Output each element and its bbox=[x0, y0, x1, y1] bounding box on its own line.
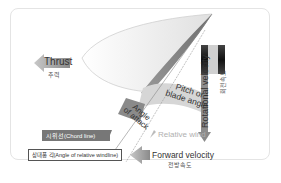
forward-velocity-label: Forward velocity bbox=[152, 150, 214, 160]
blade-body bbox=[82, 14, 212, 92]
relative-wind-angle-label: 상대풍 각(Angle of relative windline) bbox=[28, 149, 122, 161]
rotational-velocity-label: Rotational velocity bbox=[200, 55, 210, 128]
thrust-label-ko: 추력 bbox=[48, 70, 60, 79]
relative-wind-arrow-icon bbox=[150, 130, 156, 138]
forward-velocity-arrow-icon bbox=[130, 146, 150, 164]
forward-velocity-label-ko: 전방속도 bbox=[168, 160, 192, 169]
rotational-velocity-label-ko: 회전속도 bbox=[218, 70, 227, 94]
chord-line-label: 시위선(Chord line) bbox=[42, 130, 110, 141]
relative-wind-label: Relative wind bbox=[158, 130, 206, 139]
thrust-label: Thrust bbox=[44, 56, 72, 67]
